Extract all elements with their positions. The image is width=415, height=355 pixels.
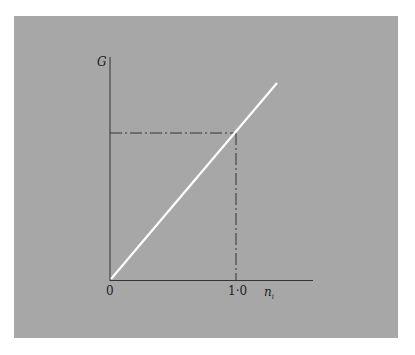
data-line xyxy=(111,83,277,279)
x-axis-label-subscript: i xyxy=(272,293,274,301)
chart-plot xyxy=(0,0,415,355)
origin-tick-label: 0 xyxy=(106,285,114,297)
x-tick-label-one: 1·0 xyxy=(228,285,247,297)
x-axis-label-main: n xyxy=(264,285,272,299)
x-axis-label: ni xyxy=(264,286,274,303)
y-axis-label: G xyxy=(97,56,107,68)
